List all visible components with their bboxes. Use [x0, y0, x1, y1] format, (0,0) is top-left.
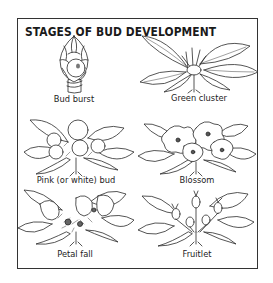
bud-burst-icon — [50, 32, 100, 94]
stage-bud-burst: Bud burst — [50, 32, 100, 94]
stage-label: Bud burst — [54, 94, 94, 104]
petal-fall-icon — [18, 188, 136, 248]
stage-label: Green cluster — [171, 93, 227, 103]
stage-blossom: Blossom — [138, 112, 256, 178]
stage-label: Pink (or white) bud — [37, 175, 115, 185]
stage-label: Petal fall — [57, 249, 93, 259]
stage-label: Fruitlet — [182, 249, 211, 259]
fruitlet-icon — [138, 188, 256, 248]
stage-petal-fall: Petal fall — [18, 188, 136, 248]
blossom-icon — [138, 112, 256, 178]
pink-bud-icon — [18, 112, 136, 178]
green-cluster-icon — [138, 32, 258, 94]
stage-label: Blossom — [180, 175, 215, 185]
stage-fruitlet: Fruitlet — [138, 188, 256, 248]
stage-pink-bud: Pink (or white) bud — [18, 112, 136, 178]
stage-green-cluster: Green cluster — [138, 32, 258, 94]
